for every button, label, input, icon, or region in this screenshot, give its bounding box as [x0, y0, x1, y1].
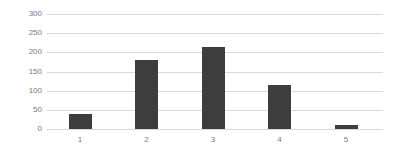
y-axis-tick-label: 0: [0, 124, 42, 134]
bar: [135, 60, 158, 129]
x-axis-tick-label: 3: [193, 135, 233, 145]
gridline: [47, 33, 383, 34]
x-axis-tick-label: 4: [260, 135, 300, 145]
y-axis-tick-label: 300: [0, 9, 42, 19]
y-axis-tick-label: 200: [0, 47, 42, 57]
bar: [69, 114, 92, 129]
y-axis-tick-label: 250: [0, 28, 42, 38]
bar-chart: 050100150200250300 12345: [0, 0, 403, 162]
gridline: [47, 14, 383, 15]
y-axis-tick-label: 100: [0, 86, 42, 96]
x-axis-tick-label: 5: [326, 135, 366, 145]
bar: [268, 85, 291, 129]
gridline: [47, 129, 383, 130]
y-axis-tick-label: 150: [0, 67, 42, 77]
x-axis-tick-label: 2: [127, 135, 167, 145]
y-axis-tick-label: 50: [0, 105, 42, 115]
x-axis-tick-label: 1: [60, 135, 100, 145]
bar: [202, 47, 225, 129]
bar: [335, 125, 358, 129]
